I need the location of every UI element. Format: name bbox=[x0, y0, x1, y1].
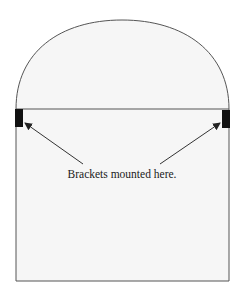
arched-panel-outline bbox=[16, 20, 229, 281]
right-bracket bbox=[222, 110, 230, 128]
arched-panel-diagram: Brackets mounted here. bbox=[0, 0, 241, 293]
bracket-caption: Brackets mounted here. bbox=[68, 168, 177, 180]
left-bracket bbox=[15, 109, 23, 127]
